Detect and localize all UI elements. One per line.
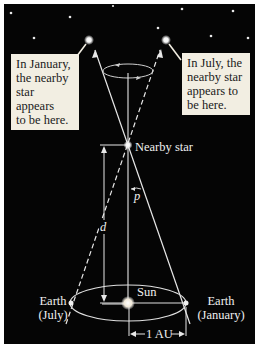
background-stars: [10, 5, 250, 39]
nearby-star: [124, 141, 133, 150]
au-scale-label: 1 AU: [146, 327, 173, 341]
sun: [121, 296, 135, 310]
sightline-july: [66, 50, 160, 324]
distance-label: d: [99, 220, 107, 234]
callout-text: appears to: [187, 84, 245, 98]
sightline-january: [95, 50, 190, 324]
callout-january: In January, the nearby star appears to b…: [11, 54, 79, 130]
earth-july-label: Earth (July): [36, 294, 70, 322]
earth-july-label-line: Earth: [36, 294, 70, 308]
callout-text: In July, the: [187, 56, 245, 70]
apparent-star-july: [161, 35, 171, 45]
sun-label: Sun: [137, 285, 156, 299]
callout-text: star appears: [16, 85, 74, 113]
callout-text: to be here.: [16, 113, 74, 127]
earth-january-label-line: (January): [193, 308, 249, 322]
callout-text: be here.: [187, 98, 245, 112]
earth-january-label: Earth (January): [193, 294, 249, 322]
callout-text: nearby star: [187, 70, 245, 84]
earth-january-label-line: Earth: [193, 294, 249, 308]
callout-text: In January,: [16, 57, 74, 71]
parallax-diagram: In January, the nearby star appears to b…: [0, 0, 257, 346]
callout-text: the nearby: [16, 71, 74, 85]
apparent-star-january: [84, 35, 94, 45]
nearby-star-label: Nearby star: [135, 140, 193, 154]
parallax-angle-label: p: [134, 189, 140, 203]
earth-july-label-line: (July): [36, 308, 70, 322]
callout-july: In July, the nearby star appears to be h…: [182, 53, 250, 115]
earth-january: [184, 301, 189, 306]
